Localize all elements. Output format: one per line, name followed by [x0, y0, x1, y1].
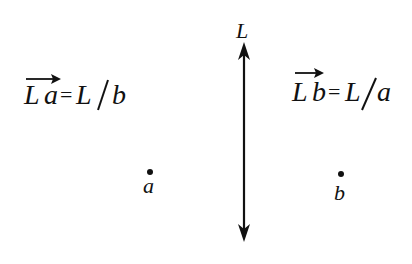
diagram-canvas: L L a = L b L b =: [0, 0, 412, 264]
line-l-double-arrow: [238, 42, 250, 242]
right-vector-sub: b: [312, 76, 326, 107]
point-b-dot: [338, 171, 344, 177]
point-b: b: [334, 171, 345, 205]
point-b-label: b: [334, 180, 345, 205]
left-equation: L a = L b: [23, 74, 126, 110]
left-vector-L: L: [23, 79, 40, 110]
right-equals: =: [328, 79, 340, 104]
left-rhs-den: b: [112, 79, 126, 110]
left-equals: =: [60, 82, 72, 107]
point-a-label: a: [143, 173, 154, 198]
right-rhs-L: L: [344, 76, 361, 107]
left-rhs-L: L: [75, 79, 92, 110]
point-a: a: [143, 169, 154, 198]
right-equation: L b = L a: [291, 68, 391, 110]
right-slash: [362, 78, 376, 110]
reflection-diagram: L L a = L b L b =: [0, 0, 412, 264]
line-label: L: [235, 18, 248, 43]
right-rhs-den: a: [377, 76, 391, 107]
left-slash: [98, 80, 108, 110]
left-vector-sub: a: [44, 79, 58, 110]
right-vector-L: L: [291, 76, 308, 107]
